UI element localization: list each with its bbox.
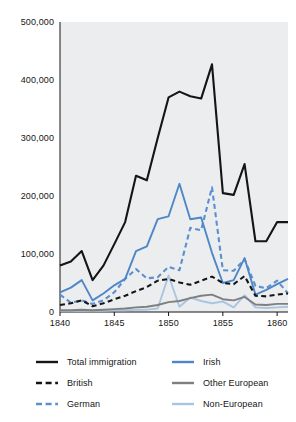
legend-label-other-european: Other European — [203, 378, 268, 388]
x-tick-label: 1850 — [158, 318, 178, 328]
y-tick-label: 200,000 — [21, 191, 54, 201]
y-tick-label: 100,000 — [21, 249, 54, 259]
y-tick-label: 400,000 — [21, 75, 54, 85]
legend-label-british: British — [67, 378, 93, 388]
y-tick-label: 300,000 — [21, 133, 54, 143]
x-tick-label: 1845 — [104, 318, 124, 328]
legend-label-non-european: Non-European — [203, 399, 263, 409]
legend-label-total-immigration: Total immigration — [67, 357, 137, 367]
chart-figure: 0100,000200,000300,000400,000500,000 184… — [0, 0, 296, 422]
y-tick-label: 0 — [49, 307, 54, 317]
immigration-line-chart: 0100,000200,000300,000400,000500,000 184… — [0, 0, 296, 422]
legend-label-german: German — [67, 399, 100, 409]
x-tick-label: 1860 — [267, 318, 287, 328]
x-tick-label: 1840 — [50, 318, 70, 328]
legend-label-irish: Irish — [203, 357, 221, 367]
y-tick-label: 500,000 — [21, 17, 54, 27]
x-tick-label: 1855 — [213, 318, 233, 328]
